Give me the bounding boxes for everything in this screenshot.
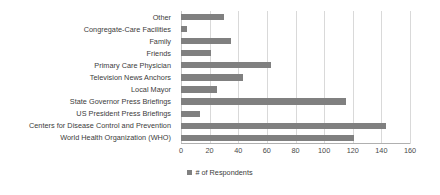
bar[interactable] (181, 123, 386, 129)
bar-row (181, 11, 410, 23)
bar[interactable] (181, 74, 243, 80)
legend: # of Respondents (0, 168, 440, 177)
bar-row (181, 96, 410, 108)
value-axis-line (181, 143, 410, 144)
bar[interactable] (181, 26, 187, 32)
bar[interactable] (181, 38, 231, 44)
bar[interactable] (181, 135, 354, 141)
value-tick-label: 40 (234, 146, 242, 155)
value-tick-label: 160 (404, 146, 416, 155)
bar-row (181, 23, 410, 35)
bar[interactable] (181, 98, 346, 104)
bar[interactable] (181, 50, 211, 56)
legend-label: # of Respondents (195, 168, 252, 177)
bar-row (181, 71, 410, 83)
value-axis: 020406080100120140160 (181, 146, 410, 158)
value-tick-label: 0 (179, 146, 183, 155)
value-tick-label: 140 (375, 146, 387, 155)
category-label: Other (153, 13, 176, 22)
category-label: Television News Anchors (90, 73, 176, 82)
bar[interactable] (181, 86, 217, 92)
gridline (410, 11, 411, 144)
category-label: Congregate-Care Facilities (84, 25, 176, 34)
plot-area (181, 11, 410, 144)
category-axis: Other Congregate-Care Facilities Family … (0, 11, 176, 144)
category-label: US President Press Briefings (76, 109, 176, 118)
bar[interactable] (181, 62, 271, 68)
bar-chart: Other Congregate-Care Facilities Family … (0, 0, 440, 195)
bar-row (181, 59, 410, 71)
bar-row (181, 108, 410, 120)
value-tick-label: 120 (347, 146, 359, 155)
value-tick-label: 100 (318, 146, 330, 155)
category-label: Primary Care Physician (94, 61, 176, 70)
bar-row (181, 83, 410, 95)
legend-swatch-respondents (187, 170, 192, 175)
bar-row (181, 47, 410, 59)
value-tick-label: 60 (263, 146, 271, 155)
bar-series (181, 11, 410, 144)
category-label: Friends (147, 49, 176, 58)
category-label: Centers for Disease Control and Preventi… (29, 121, 176, 130)
category-label: Family (149, 37, 176, 46)
bar[interactable] (181, 14, 224, 20)
category-label: State Governor Press Briefings (70, 97, 176, 106)
category-label: Local Mayor (131, 85, 176, 94)
bar-row (181, 35, 410, 47)
bar-row (181, 120, 410, 132)
value-tick-label: 80 (291, 146, 299, 155)
value-tick-label: 20 (206, 146, 214, 155)
bar[interactable] (181, 111, 200, 117)
category-label: World Health Organization (WHO) (60, 133, 176, 142)
